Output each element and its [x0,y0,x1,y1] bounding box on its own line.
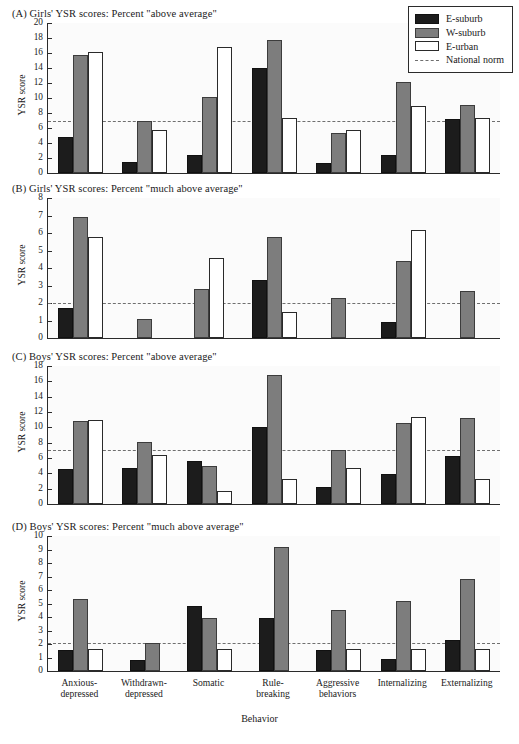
bar-esub [445,119,460,173]
y-tick-label: 5 [38,246,48,255]
bar-eurb [88,420,103,504]
y-tick-label: 2 [38,153,48,162]
bar-group [306,23,371,173]
bar-groups [48,536,500,671]
bar-eurb [346,649,361,671]
bar-group [113,536,178,671]
axis-area: 012345678 [47,198,499,338]
y-tick-label: 20 [34,18,48,27]
bar-wsub [331,450,346,504]
bar-group [371,536,436,671]
bar-group [371,198,436,338]
legend-swatch-national-norm [415,55,439,65]
y-tick-label: 8 [38,558,48,567]
bar-eurb [282,479,297,504]
bar-esub [187,606,202,671]
y-tick-label: 2 [38,484,48,493]
bar-group [177,366,242,504]
bar-group [435,366,500,504]
y-tick-label: 3 [38,626,48,635]
y-tick-label: 2 [38,639,48,648]
plot-area: 012345678 [47,198,500,339]
bar-wsub [137,319,152,338]
bar-wsub [267,40,282,173]
y-tick-label: 0 [38,499,48,508]
bar-eurb [209,258,224,339]
bar-wsub [137,121,152,173]
bar-eurb [346,468,361,504]
legend-label-e-urban: E-urban [446,40,478,54]
y-tick-label: 6 [38,453,48,462]
category-label: Somatic [176,677,241,699]
bar-wsub [202,97,217,174]
bar-esub [445,456,460,504]
bar-group [242,366,307,504]
legend: E-suburb W-suburb E-urban National norm [408,6,513,73]
y-tick-mark [48,173,52,174]
y-tick-label: 16 [34,377,48,386]
y-tick-label: 10 [34,93,48,102]
bar-wsub [202,466,217,504]
category-label: Internalizing [370,677,435,699]
bar-eurb [411,649,426,671]
bar-wsub [73,599,88,671]
legend-label-national-norm: National norm [446,53,504,67]
category-label: Rule-breaking [241,677,306,699]
y-tick-label: 18 [34,361,48,370]
bar-eurb [217,491,232,504]
y-tick-mark [48,504,52,505]
bar-wsub [145,643,160,671]
y-tick-label: 8 [38,438,48,447]
axis-area: 024681012141618 [47,366,499,504]
bar-esub [58,308,73,338]
bar-wsub [331,610,346,671]
bar-esub [381,155,396,173]
bar-group [48,366,113,504]
bar-eurb [88,649,103,671]
bar-eurb [282,312,297,338]
category-label: Withdrawn-depressed [112,677,177,699]
y-tick-label: 5 [38,599,48,608]
y-tick-label: 10 [34,423,48,432]
bar-esub [58,650,73,671]
bar-group [113,23,178,173]
bar-wsub [274,547,289,671]
y-tick-label: 4 [38,612,48,621]
bar-wsub [73,421,88,504]
bar-esub [316,650,331,671]
y-tick-label: 4 [38,138,48,147]
y-tick-label: 1 [38,653,48,662]
legend-swatch-e-urban [415,41,439,51]
plot-wrapper: YSR score012345678 [0,198,519,338]
bar-esub [252,68,267,173]
bar-group [113,198,178,338]
bar-eurb [411,106,426,174]
bar-group [242,536,307,671]
bar-group [306,536,371,671]
y-axis-title: YSR score [2,260,43,270]
bar-esub [122,468,137,504]
category-label: Anxious-depressed [47,677,112,699]
legend-label-e-suburb: E-suburb [446,12,483,26]
panel-title-d: (D) Boys' YSR scores: Percent "much abov… [12,521,244,532]
bar-wsub [396,423,411,504]
bar-eurb [217,649,232,671]
bar-wsub [396,261,411,338]
bar-eurb [88,237,103,339]
bar-esub [187,155,202,173]
bar-wsub [460,579,475,671]
bar-eurb [411,230,426,339]
bar-group [48,198,113,338]
bar-esub [58,469,73,504]
bar-esub [58,137,73,173]
axis-area: 012345678910 [47,536,499,671]
plot-wrapper: YSR score012345678910 [0,536,519,671]
bar-eurb [346,130,361,173]
bar-eurb [411,417,426,504]
y-tick-label: 8 [38,193,48,202]
bar-group [177,23,242,173]
y-tick-label: 6 [38,585,48,594]
bar-esub [252,280,267,338]
bar-eurb [217,47,232,173]
legend-item-e-urban: E-urban [415,40,504,54]
